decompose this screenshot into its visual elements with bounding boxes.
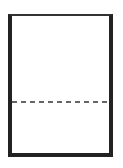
dashed-split-line bbox=[0, 0, 123, 168]
